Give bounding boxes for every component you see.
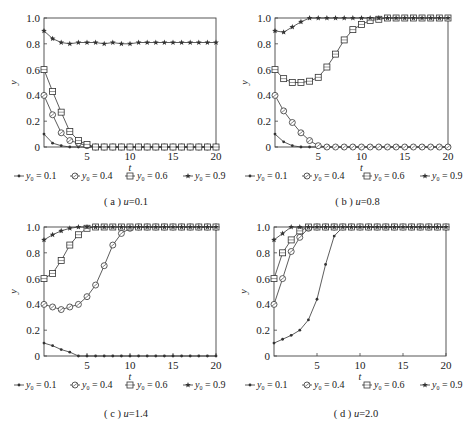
star-marker-icon <box>359 15 365 20</box>
dot-marker-icon <box>51 142 54 145</box>
x-tick-label: 15 <box>399 150 411 162</box>
star-marker-icon <box>307 15 313 20</box>
legend-item: y0 = 0.1 <box>14 170 57 182</box>
dot-marker-icon <box>43 133 46 136</box>
series-y0-0.1 <box>273 226 448 345</box>
series-y0-0.4 <box>272 92 451 150</box>
dot-marker-icon <box>189 355 192 358</box>
y-axis-label: y <box>238 289 249 295</box>
dot-marker-icon <box>249 384 252 387</box>
panel-d: 00.20.40.60.81.05101520tyy0 = 0.1y0 = 0.… <box>238 221 463 420</box>
dot-marker-icon <box>60 144 63 147</box>
y-tick-label: 0.8 <box>26 38 40 50</box>
panel-caption: ( d ) u=2.0 <box>334 408 378 420</box>
dot-marker-icon <box>111 355 114 358</box>
x-tick-label: 10 <box>355 359 367 371</box>
legend: y0 = 0.1y0 = 0.4y0 = 0.6y0 = 0.9 <box>14 379 226 391</box>
star-marker-icon <box>58 228 64 233</box>
x-tick-label: 5 <box>84 359 90 371</box>
star-marker-icon <box>324 15 330 20</box>
legend-label: y0 = 0.9 <box>431 379 463 391</box>
star-marker-icon <box>119 41 125 46</box>
star-marker-icon <box>67 41 73 46</box>
y-tick-label: 0.4 <box>26 298 40 310</box>
dot-marker-icon <box>206 355 209 358</box>
y-tick-label: 1.0 <box>257 12 271 24</box>
star-marker-icon <box>333 15 339 20</box>
star-marker-icon <box>185 382 191 387</box>
star-marker-icon <box>162 40 168 45</box>
dot-marker-icon <box>18 384 21 387</box>
legend-item: y0 = 0.4 <box>70 379 113 391</box>
legend-label: y0 = 0.4 <box>81 170 113 182</box>
legend-item: y0 = 0.4 <box>302 170 345 182</box>
dot-marker-icon <box>120 355 123 358</box>
x-axis-label: t <box>129 371 132 382</box>
x-tick-label: 5 <box>316 150 322 162</box>
y-tick-label: 0 <box>35 141 41 153</box>
legend-item: y0 = 0.6 <box>362 379 405 391</box>
y-tick-label: 0.8 <box>257 38 271 50</box>
legend-label: y0 = 0.4 <box>313 170 345 182</box>
legend-label: y0 = 0.9 <box>194 379 226 391</box>
series-y0-0.4 <box>271 224 449 307</box>
dot-marker-icon <box>51 344 54 347</box>
star-marker-icon <box>187 40 193 45</box>
star-marker-icon <box>144 40 150 45</box>
star-marker-icon <box>101 41 107 46</box>
y-tick-label: 0 <box>35 350 41 362</box>
series-line <box>44 70 216 147</box>
legend-label: y0 = 0.1 <box>256 170 288 182</box>
dot-marker-icon <box>68 351 71 354</box>
star-marker-icon <box>196 40 202 45</box>
x-tick-label: 5 <box>314 359 320 371</box>
dot-marker-icon <box>324 263 327 266</box>
series-line <box>275 95 448 147</box>
legend-label: y0 = 0.4 <box>313 379 345 391</box>
dot-marker-icon <box>137 355 140 358</box>
y-tick-label: 0.2 <box>256 324 270 336</box>
dot-marker-icon <box>273 342 276 345</box>
star-marker-icon <box>67 225 73 230</box>
dot-marker-icon <box>18 175 21 178</box>
star-marker-icon <box>350 15 356 20</box>
dot-marker-icon <box>146 355 149 358</box>
x-tick-label: 20 <box>443 150 455 162</box>
star-marker-icon <box>205 40 211 45</box>
y-tick-label: 1.0 <box>26 12 40 24</box>
star-marker-icon <box>179 40 185 45</box>
y-tick-label: 0.8 <box>26 247 40 259</box>
dot-marker-icon <box>94 355 97 358</box>
dot-marker-icon <box>180 355 183 358</box>
dot-marker-icon <box>86 355 89 358</box>
panel-c: 00.20.40.60.81.05101520tyy0 = 0.1y0 = 0.… <box>8 221 226 420</box>
star-marker-icon <box>93 40 99 45</box>
series-y0-0.6 <box>272 15 451 86</box>
x-tick-label: 15 <box>168 359 180 371</box>
legend-item: y0 = 0.9 <box>183 379 226 391</box>
star-marker-icon <box>136 40 142 45</box>
legend-item: y0 = 0.1 <box>245 379 288 391</box>
dot-marker-icon <box>60 348 63 351</box>
x-tick-label: 10 <box>356 150 368 162</box>
legend-label: y0 = 0.1 <box>25 379 57 391</box>
dot-marker-icon <box>308 146 311 149</box>
panel-b: 00.20.40.60.81.05101520tyy0 = 0.1y0 = 0.… <box>239 12 463 208</box>
star-marker-icon <box>127 41 133 46</box>
legend-label: y0 = 0.6 <box>136 379 168 391</box>
figure-canvas: 00.20.40.60.81.05101520tyy0 = 0.1y0 = 0.… <box>0 0 472 436</box>
series-y0-0.6 <box>41 224 219 282</box>
y-tick-label: 1.0 <box>26 221 40 233</box>
y-tick-label: 0.2 <box>26 115 40 127</box>
y-axis-label: y <box>8 289 19 295</box>
star-marker-icon <box>315 15 321 20</box>
legend-label: y0 = 0.4 <box>81 379 113 391</box>
dot-marker-icon <box>282 140 285 143</box>
dot-marker-icon <box>333 235 336 238</box>
x-axis-label: t <box>360 162 363 173</box>
dot-marker-icon <box>129 355 132 358</box>
panel-caption: ( b ) u=0.8 <box>335 196 379 208</box>
series-line <box>44 227 216 279</box>
dot-marker-icon <box>197 355 200 358</box>
legend-label: y0 = 0.9 <box>194 170 226 182</box>
